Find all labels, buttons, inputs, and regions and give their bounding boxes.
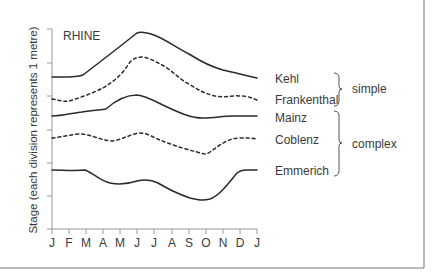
x-tick-label: J — [151, 236, 157, 250]
y-axis — [47, 29, 52, 229]
series-frankenthal-line — [52, 57, 257, 101]
x-tick-label: M — [81, 236, 91, 250]
x-tick-label: S — [185, 236, 193, 250]
series-label-coblenz: Coblenz — [275, 133, 319, 147]
series-mainz-line — [52, 95, 257, 118]
series-label-kehl: Kehl — [275, 72, 299, 86]
x-tick-label: J — [254, 236, 260, 250]
group-label-complex: complex — [352, 137, 397, 151]
x-tick-label: O — [201, 236, 210, 250]
series-label-emmerich: Emmerich — [275, 164, 329, 178]
chart-title: RHINE — [63, 29, 100, 43]
x-tick-label: M — [115, 236, 125, 250]
x-tick-label: A — [99, 236, 107, 250]
x-tick-label: N — [219, 236, 228, 250]
y-axis-label: Stage (each division represents 1 metre) — [27, 26, 39, 233]
series-emmerich-line — [52, 170, 257, 200]
x-tick-label: J — [49, 236, 55, 250]
x-tick-labels: J F M A M J J A S O N D J — [49, 236, 260, 250]
series-coblenz-line — [52, 133, 257, 154]
group-label-simple: simple — [352, 82, 387, 96]
brace-complex-icon — [334, 111, 342, 176]
x-tick-label: D — [236, 236, 245, 250]
series-label-frankenthal: Frankenthal — [275, 93, 338, 107]
series-label-mainz: Mainz — [275, 111, 307, 125]
x-tick-label: A — [168, 236, 176, 250]
x-tick-label: F — [65, 236, 72, 250]
rhine-regime-chart: J F M A M J J A S O N D J Stage (each di… — [0, 0, 446, 278]
x-axis — [47, 229, 257, 234]
x-tick-label: J — [134, 236, 140, 250]
